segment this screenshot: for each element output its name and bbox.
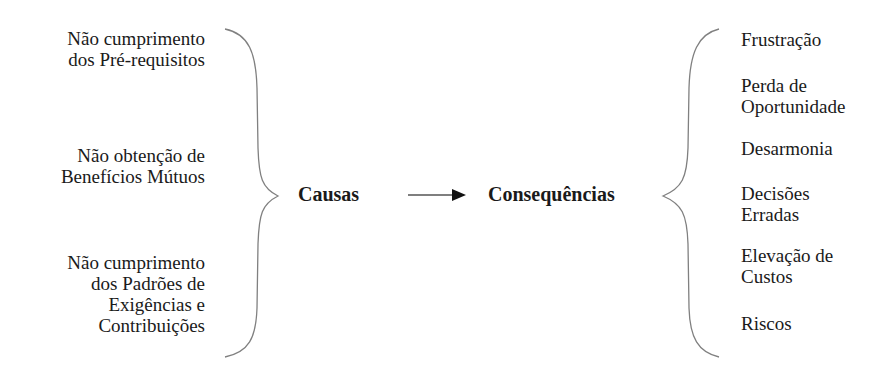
figure-caption-cropped xyxy=(200,376,780,383)
cause-consequence-diagram: Não cumprimento dos Pré-requisitos Não o… xyxy=(0,0,890,383)
consequence-item: Desarmonia xyxy=(741,138,833,159)
cause-item: Não cumprimento dos Padrões de Exigência… xyxy=(67,252,205,336)
consequence-item: Riscos xyxy=(741,313,792,334)
cause-item: Não obtenção de Benefícios Mútuos xyxy=(61,145,205,187)
cause-item: Não cumprimento dos Pré-requisitos xyxy=(67,28,205,70)
consequence-item: Perda de Oportunidade xyxy=(741,75,845,117)
consequence-item: Decisões Erradas xyxy=(741,183,810,225)
consequences-label: Consequências xyxy=(488,183,615,206)
causes-label: Causas xyxy=(298,183,359,206)
left-brace-icon xyxy=(660,28,720,358)
arrow-right-icon xyxy=(408,187,468,203)
right-brace-icon xyxy=(224,28,288,358)
consequence-item: Elevação de Custos xyxy=(741,245,833,287)
consequence-item: Frustração xyxy=(741,29,821,50)
